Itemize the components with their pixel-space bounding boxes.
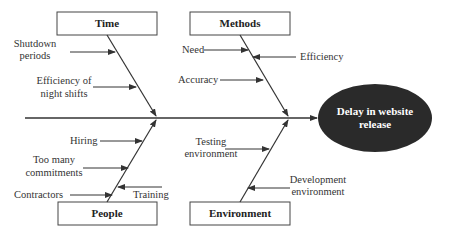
svg-text:night shifts: night shifts [41,88,88,99]
effect-label-line1: Delay in website [337,105,414,117]
svg-text:Testing: Testing [196,136,228,147]
category-time-label: Time [95,17,119,29]
category-methods-label: Methods [220,17,262,29]
cause-development-environment: Development environment [248,174,346,197]
category-methods: Methods Need Efficiency Accuracy [178,12,344,116]
svg-text:Training: Training [133,189,170,200]
svg-text:Shutdown: Shutdown [14,38,57,49]
time-bone [107,35,156,116]
svg-text:Too many: Too many [33,154,76,165]
category-time: Time Shutdown periods Efficiency of nigh… [14,12,157,116]
effect-node: Delay in website release [318,84,432,152]
category-people: People Hiring Too many commitments Contr… [14,120,170,225]
svg-text:environment: environment [291,186,344,197]
svg-text:Hiring: Hiring [70,135,98,146]
cause-too-many-commitments: Too many commitments [25,154,128,178]
svg-text:Accuracy: Accuracy [178,74,219,85]
svg-text:commitments: commitments [25,167,82,178]
svg-text:Efficiency: Efficiency [300,51,344,62]
category-environment-label: Environment [209,207,271,219]
svg-text:periods: periods [20,50,51,61]
category-people-label: People [91,207,122,219]
svg-text:Need: Need [182,44,205,55]
svg-text:environment: environment [184,148,237,159]
effect-label-line2: release [359,118,391,130]
cause-training: Training [118,187,170,200]
category-environment: Environment Testing environment Developm… [184,120,346,225]
cause-testing-environment: Testing environment [184,136,269,159]
svg-text:Contractors: Contractors [14,189,63,200]
cause-need: Need [182,44,248,55]
cause-accuracy: Accuracy [178,74,263,85]
cause-efficiency: Efficiency [253,51,344,62]
cause-hiring: Hiring [70,135,142,146]
cause-efficiency-of-night-shifts: Efficiency of night shifts [37,75,136,99]
svg-text:Efficiency of: Efficiency of [37,75,92,86]
svg-text:Development: Development [290,174,347,185]
environment-bone [240,120,288,202]
cause-shutdown-periods: Shutdown periods [14,38,115,61]
fishbone-diagram: Delay in website release Time Shutdown p… [0,0,459,236]
methods-bone [240,35,288,116]
cause-contractors: Contractors [14,189,112,200]
